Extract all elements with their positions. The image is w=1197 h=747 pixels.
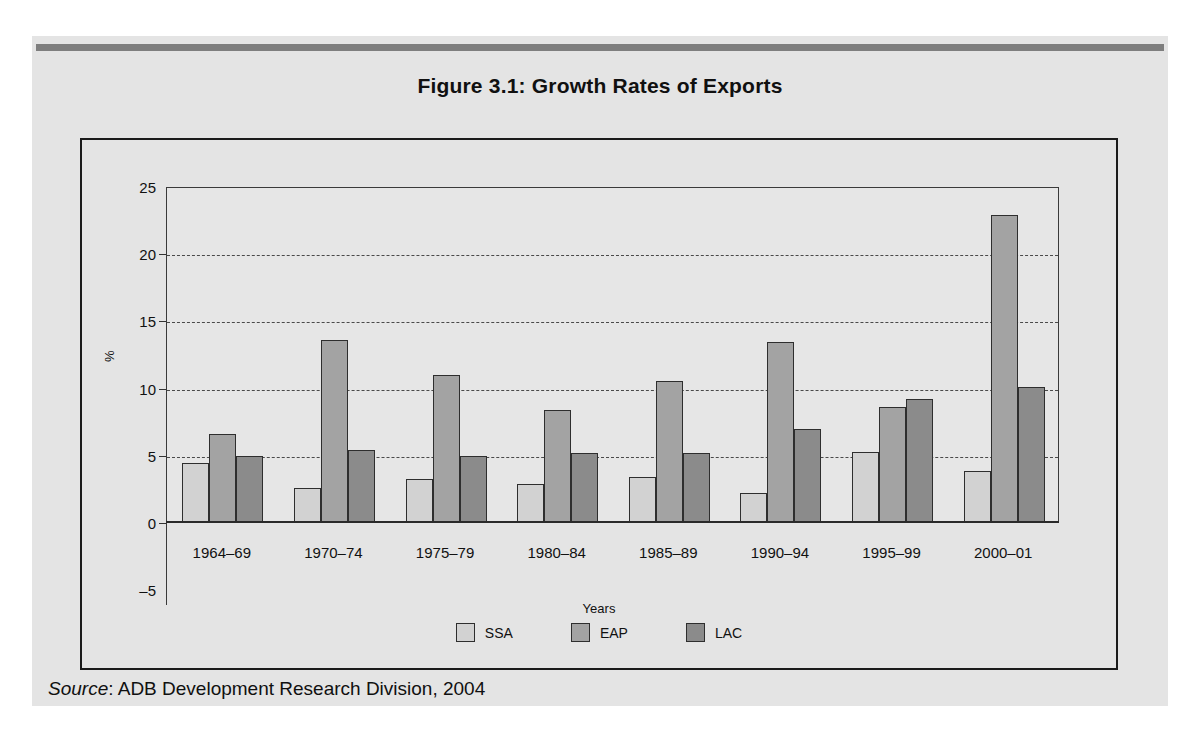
- bar-lac: [571, 453, 598, 523]
- bar-group: [964, 188, 1045, 523]
- x-axis-category-label: 1964–69: [193, 544, 251, 561]
- plot-inner: [167, 188, 1058, 523]
- source-text: : ADB Development Research Division, 200…: [108, 678, 485, 699]
- bar-eap: [879, 407, 906, 523]
- legend-swatch-icon: [571, 623, 590, 642]
- bar-group: [406, 188, 487, 523]
- bar-eap: [321, 340, 348, 523]
- y-axis-tick-label: 20: [114, 246, 156, 263]
- bar-group: [294, 188, 375, 523]
- bar-ssa: [182, 463, 209, 523]
- legend-label: LAC: [715, 625, 742, 641]
- legend-item-eap[interactable]: EAP: [571, 623, 628, 642]
- legend-title: Years: [82, 601, 1116, 616]
- y-axis-tick-label: 10: [114, 380, 156, 397]
- bar-eap: [544, 410, 571, 523]
- legend-item-ssa[interactable]: SSA: [456, 623, 513, 642]
- bar-lac: [348, 450, 375, 523]
- source-label: Source: [48, 678, 108, 699]
- x-axis-category-label: 1980–84: [527, 544, 585, 561]
- y-axis-tick-mark: [159, 321, 166, 322]
- bar-eap: [433, 375, 460, 523]
- bar-ssa: [629, 477, 656, 523]
- bar-ssa: [964, 471, 991, 523]
- bar-eap: [991, 215, 1018, 523]
- figure-title: Figure 3.1: Growth Rates of Exports: [32, 74, 1168, 98]
- top-divider-rule: [36, 44, 1164, 51]
- bar-ssa: [517, 484, 544, 523]
- y-axis-tick-label: 15: [114, 313, 156, 330]
- legend-swatch-icon: [686, 623, 705, 642]
- bar-eap: [656, 381, 683, 523]
- x-axis-category-label: 2000–01: [974, 544, 1032, 561]
- bar-lac: [1018, 387, 1045, 523]
- x-axis-category-label: 1990–94: [751, 544, 809, 561]
- y-axis-tick-mark: [159, 389, 166, 390]
- bar-group: [517, 188, 598, 523]
- bar-lac: [794, 429, 821, 523]
- y-axis-tick-label: 5: [114, 447, 156, 464]
- y-axis-spine-extension: [166, 523, 167, 605]
- bar-ssa: [852, 452, 879, 523]
- y-axis-tick-mark: [159, 456, 166, 457]
- bar-group: [852, 188, 933, 523]
- x-axis-category-label: 1995–99: [862, 544, 920, 561]
- legend-label: EAP: [600, 625, 628, 641]
- y-axis-tick-label: –5: [114, 582, 156, 599]
- bar-ssa: [406, 479, 433, 523]
- y-axis-tick-mark: [159, 254, 166, 255]
- x-axis-category-label: 1985–89: [639, 544, 697, 561]
- chart-legend: SSAEAPLAC: [82, 623, 1116, 642]
- y-axis-tick-label: 0: [114, 515, 156, 532]
- bar-lac: [236, 456, 263, 523]
- y-axis-title: %: [102, 350, 117, 362]
- chart-frame: % 2520151050–5 1964–691970–741975–791980…: [80, 138, 1118, 670]
- bar-lac: [683, 453, 710, 523]
- legend-label: SSA: [485, 625, 513, 641]
- legend-swatch-icon: [456, 623, 475, 642]
- legend-item-lac[interactable]: LAC: [686, 623, 742, 642]
- bar-group: [629, 188, 710, 523]
- bar-ssa: [740, 493, 767, 523]
- y-axis-tick-label: 25: [114, 179, 156, 196]
- bar-lac: [906, 399, 933, 523]
- bar-eap: [209, 434, 236, 523]
- bar-group: [740, 188, 821, 523]
- bar-eap: [767, 342, 794, 523]
- x-axis-category-label: 1970–74: [304, 544, 362, 561]
- source-note: Source: ADB Development Research Divisio…: [48, 678, 485, 700]
- x-axis-category-label: 1975–79: [416, 544, 474, 561]
- page-canvas: Figure 3.1: Growth Rates of Exports % 25…: [0, 0, 1197, 747]
- plot-area: [166, 187, 1059, 523]
- bar-group: [182, 188, 263, 523]
- bar-lac: [460, 456, 487, 523]
- y-axis-tick-mark: [159, 523, 166, 524]
- bar-ssa: [294, 488, 321, 523]
- x-axis-zero-line: [166, 521, 1059, 523]
